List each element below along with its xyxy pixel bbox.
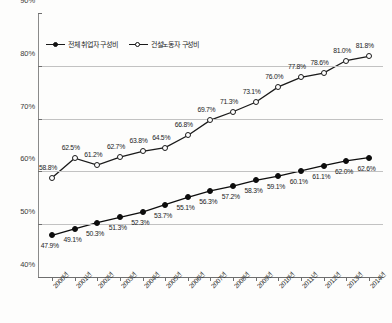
data-point-label: 71.3% <box>220 98 238 105</box>
data-point-label: 61.1% <box>312 173 330 180</box>
legend-label-construction-worker: 건설노동자 구성비 <box>151 39 199 49</box>
data-point-marker[interactable] <box>162 145 168 151</box>
gridline <box>38 66 383 67</box>
data-point-label: 81.0% <box>333 47 351 54</box>
data-point-label: 57.2% <box>222 193 240 200</box>
gridline <box>38 171 383 172</box>
data-point-label: 81.8% <box>356 42 374 49</box>
chart-legend: 전체 취업자 구성비 건설노동자 구성비 <box>46 39 199 49</box>
data-point-label: 73.1% <box>243 88 261 95</box>
data-point-label: 55.1% <box>177 204 195 211</box>
y-axis-tick-mark <box>38 13 42 14</box>
data-point-label: 77.8% <box>288 63 306 70</box>
data-point-label: 60.1% <box>290 178 308 185</box>
data-point-label: 63.8% <box>130 137 148 144</box>
data-point-marker[interactable] <box>72 226 78 232</box>
series-lines <box>38 13 383 277</box>
data-point-label: 51.3% <box>109 224 127 231</box>
y-axis-tick-labels: 40%50%60%70%80%90% <box>0 0 35 264</box>
data-point-marker[interactable] <box>49 175 55 181</box>
data-point-label: 58.8% <box>39 164 57 171</box>
legend-item-construction-worker[interactable]: 건설노동자 구성비 <box>129 39 199 49</box>
data-point-label: 78.6% <box>311 59 329 66</box>
data-point-label: 50.3% <box>86 230 104 237</box>
data-point-label: 47.9% <box>41 242 59 249</box>
legend-marker-filled-circle-icon <box>46 40 65 48</box>
data-point-marker[interactable] <box>94 220 100 226</box>
y-axis-tick-label: 80% <box>20 48 35 57</box>
data-point-label: 69.7% <box>197 106 215 113</box>
y-axis-tick-label: 50% <box>20 207 35 216</box>
data-point-label: 52.3% <box>131 219 149 226</box>
data-point-label: 64.5% <box>152 134 170 141</box>
data-point-label: 49.1% <box>63 236 81 243</box>
data-point-label: 62.0% <box>335 168 353 175</box>
gridline <box>38 224 383 225</box>
data-point-marker[interactable] <box>72 155 78 161</box>
y-axis-tick-mark <box>38 66 42 67</box>
data-point-marker[interactable] <box>343 58 349 64</box>
data-point-label: 62.6% <box>358 165 376 172</box>
data-point-label: 62.7% <box>107 143 125 150</box>
y-axis-tick-label: 90% <box>20 0 35 5</box>
data-point-marker[interactable] <box>321 70 327 76</box>
data-point-label: 66.8% <box>175 121 193 128</box>
y-axis-tick-mark <box>38 119 42 120</box>
y-axis-tick-mark <box>38 224 42 225</box>
data-point-marker[interactable] <box>343 158 349 164</box>
data-point-label: 62.5% <box>62 144 80 151</box>
data-point-marker[interactable] <box>230 109 236 115</box>
plot-area <box>38 13 383 277</box>
data-point-label: 56.3% <box>199 198 217 205</box>
data-point-marker[interactable] <box>366 53 372 59</box>
data-point-marker[interactable] <box>140 209 146 215</box>
data-point-marker[interactable] <box>185 194 191 200</box>
data-point-marker[interactable] <box>321 163 327 169</box>
data-point-label: 61.2% <box>84 151 102 158</box>
data-point-marker[interactable] <box>140 148 146 154</box>
y-axis-tick-label: 70% <box>20 101 35 110</box>
data-point-label: 59.1% <box>267 183 285 190</box>
y-axis-tick-label: 40% <box>20 260 35 269</box>
legend-marker-hollow-circle-icon <box>129 40 148 48</box>
data-point-marker[interactable] <box>253 99 259 105</box>
data-point-marker[interactable] <box>298 168 304 174</box>
legend-label-total-employed: 전체 취업자 구성비 <box>68 39 118 49</box>
chart-container: 40%50%60%70%80%90% 47.9%49.1%50.3%51.3%5… <box>0 0 392 323</box>
y-axis-tick-mark <box>38 277 42 278</box>
data-point-label: 58.3% <box>244 187 262 194</box>
y-axis-tick-mark <box>38 171 42 172</box>
legend-item-total-employed[interactable]: 전체 취업자 구성비 <box>46 39 118 49</box>
data-point-marker[interactable] <box>117 154 123 160</box>
data-point-marker[interactable] <box>366 155 372 161</box>
data-point-label: 76.0% <box>265 73 283 80</box>
data-point-label: 53.7% <box>154 212 172 219</box>
y-axis-tick-label: 60% <box>20 154 35 163</box>
data-point-marker[interactable] <box>162 202 168 208</box>
